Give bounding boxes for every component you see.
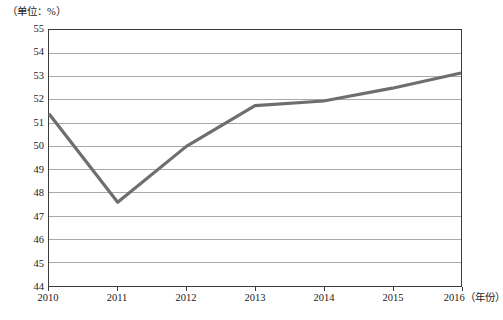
y-tick-label: 46 <box>2 234 44 245</box>
x-axis-unit-label: （年份） <box>465 292 503 303</box>
x-tick-mark <box>462 287 463 291</box>
y-tick-label: 52 <box>2 93 44 104</box>
plot-area <box>48 29 462 287</box>
x-tick-value: 2013 <box>245 292 266 303</box>
x-tick-label: 2010 <box>38 291 59 304</box>
x-tick-label: 2012 <box>176 291 197 304</box>
x-tick-value: 2010 <box>38 292 59 303</box>
x-tick-label: 2011 <box>107 291 128 304</box>
y-tick-label: 55 <box>2 23 44 34</box>
x-tick-label: 2014 <box>314 291 335 304</box>
y-tick-label: 53 <box>2 70 44 81</box>
chart-unit-label: （单位：%） <box>7 3 66 18</box>
y-tick-label: 54 <box>2 46 44 57</box>
x-tick-value: 2014 <box>314 292 335 303</box>
x-axis: 2010201120122013201420152016（年份） <box>48 291 462 313</box>
x-tick-value: 2011 <box>107 292 128 303</box>
x-tick-mark <box>186 287 187 291</box>
x-tick-mark <box>393 287 394 291</box>
y-tick-label: 45 <box>2 258 44 269</box>
y-tick-label: 49 <box>2 164 44 175</box>
x-tick-label: 2016（年份） <box>444 291 503 304</box>
x-tick-value: 2016 <box>444 292 465 303</box>
x-tick-value: 2015 <box>383 292 404 303</box>
x-tick-value: 2012 <box>176 292 197 303</box>
x-tick-mark <box>255 287 256 291</box>
x-tick-mark <box>117 287 118 291</box>
series-polyline <box>49 73 461 202</box>
y-tick-label: 51 <box>2 117 44 128</box>
x-tick-label: 2015 <box>383 291 404 304</box>
y-axis: 555453525150494847464544 <box>0 29 44 287</box>
y-tick-label: 50 <box>2 140 44 151</box>
x-tick-mark <box>324 287 325 291</box>
y-tick-label: 47 <box>2 211 44 222</box>
y-tick-label: 48 <box>2 187 44 198</box>
x-tick-label: 2013 <box>245 291 266 304</box>
x-tick-mark <box>48 287 49 291</box>
data-series-line <box>49 30 461 286</box>
